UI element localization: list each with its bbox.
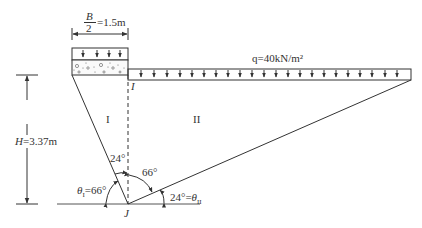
theta2-value: 24°= xyxy=(170,191,192,203)
load-label: q=40kN/m² xyxy=(252,53,303,64)
region-2-label: II xyxy=(193,114,200,125)
angle-66-label: 66° xyxy=(142,167,157,178)
height-label: H=3.37m xyxy=(15,135,57,148)
theta1-label: θI=66° xyxy=(77,185,106,199)
theta1-value: =66° xyxy=(85,184,107,196)
theta2-subscript: II xyxy=(197,198,202,206)
width-label-numerator: B xyxy=(86,11,93,22)
theta2-label: 24°=θII xyxy=(170,192,202,206)
point-j-label: J xyxy=(124,208,129,219)
wedge-diagram xyxy=(0,0,422,228)
point-i-label: I xyxy=(131,81,135,92)
width-label-denominator: 2 xyxy=(86,23,92,34)
angle-24-label: 24° xyxy=(110,153,125,164)
surcharge-strip xyxy=(128,69,411,80)
wedge-line-2 xyxy=(128,80,411,204)
width-label-value: =1.5m xyxy=(97,17,126,28)
width-dimension xyxy=(72,28,128,40)
footing-load-box xyxy=(72,48,128,60)
footing xyxy=(72,60,128,75)
region-1-label: I xyxy=(106,114,110,125)
